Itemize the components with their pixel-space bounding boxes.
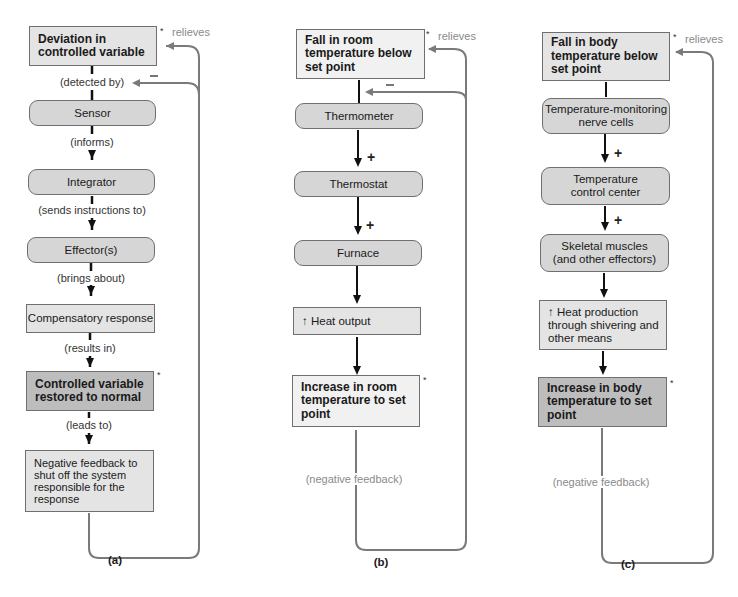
- asterisk: *: [160, 26, 164, 36]
- relieves-label: relieves: [172, 26, 210, 38]
- increase-body-temp-box: Increase in body temperature to set poin…: [538, 377, 667, 427]
- heat-production-box: ↑ Heat production through shivering and …: [539, 300, 667, 350]
- increase-room-temp-box: Increase in room temperature to set poin…: [292, 375, 420, 427]
- asterisk: *: [423, 375, 427, 385]
- thermostat-box: Thermostat: [294, 171, 423, 197]
- furnace-box: Furnace: [294, 240, 422, 266]
- negative-feedback-label: (negative feedback): [306, 473, 403, 485]
- integrator-box: Integrator: [28, 169, 155, 195]
- asterisk: *: [670, 378, 674, 388]
- fall-body-temp-box: Fall in body temperature below set point: [542, 32, 670, 81]
- fall-room-temp-box: Fall in room temperature below set point: [296, 29, 425, 79]
- negative-feedback-label: (negative feedback): [553, 476, 650, 488]
- connector-informs: (informs): [70, 136, 113, 148]
- effectors-box: Effector(s): [27, 237, 155, 263]
- restored-box: Controlled variable restored to normal: [26, 371, 154, 411]
- minus-sign: [150, 75, 158, 77]
- nerve-cells-box: Temperature-monitoring nerve cells: [542, 98, 670, 134]
- panel-b-label: (b): [374, 556, 389, 568]
- connector-results-in: (results in): [64, 342, 115, 354]
- panel-c-label: (c): [621, 558, 635, 570]
- panel-a-label: (a): [108, 554, 122, 566]
- thermometer-box: Thermometer: [295, 103, 423, 129]
- sensor-box: Sensor: [29, 100, 156, 126]
- connector-detected-by: (detected by): [60, 76, 124, 88]
- asterisk: *: [673, 32, 677, 42]
- relieves-label: relieves: [685, 33, 723, 45]
- plus-sign: +: [366, 217, 374, 233]
- control-center-box: Temperature control center: [541, 167, 670, 205]
- negative-feedback-box: Negative feedback to shut off the system…: [25, 450, 154, 512]
- relieves-label: relieves: [438, 30, 476, 42]
- plus-sign: +: [614, 212, 622, 228]
- connector-leads-to: (leads to): [66, 419, 112, 431]
- plus-sign: +: [367, 149, 375, 165]
- skeletal-muscles-box: Skeletal muscles (and other effectors): [540, 234, 669, 272]
- heat-output-box: ↑ Heat output: [293, 307, 421, 335]
- connector-brings-about: (brings about): [57, 272, 125, 284]
- connector-sends-instructions: (sends instructions to): [38, 204, 146, 216]
- plus-sign: +: [614, 145, 622, 161]
- asterisk: *: [426, 29, 430, 39]
- minus-sign: [386, 84, 394, 86]
- asterisk: *: [157, 370, 161, 380]
- compensatory-response-box: Compensatory response: [26, 304, 155, 333]
- deviation-box: Deviation in controlled variable: [29, 26, 157, 66]
